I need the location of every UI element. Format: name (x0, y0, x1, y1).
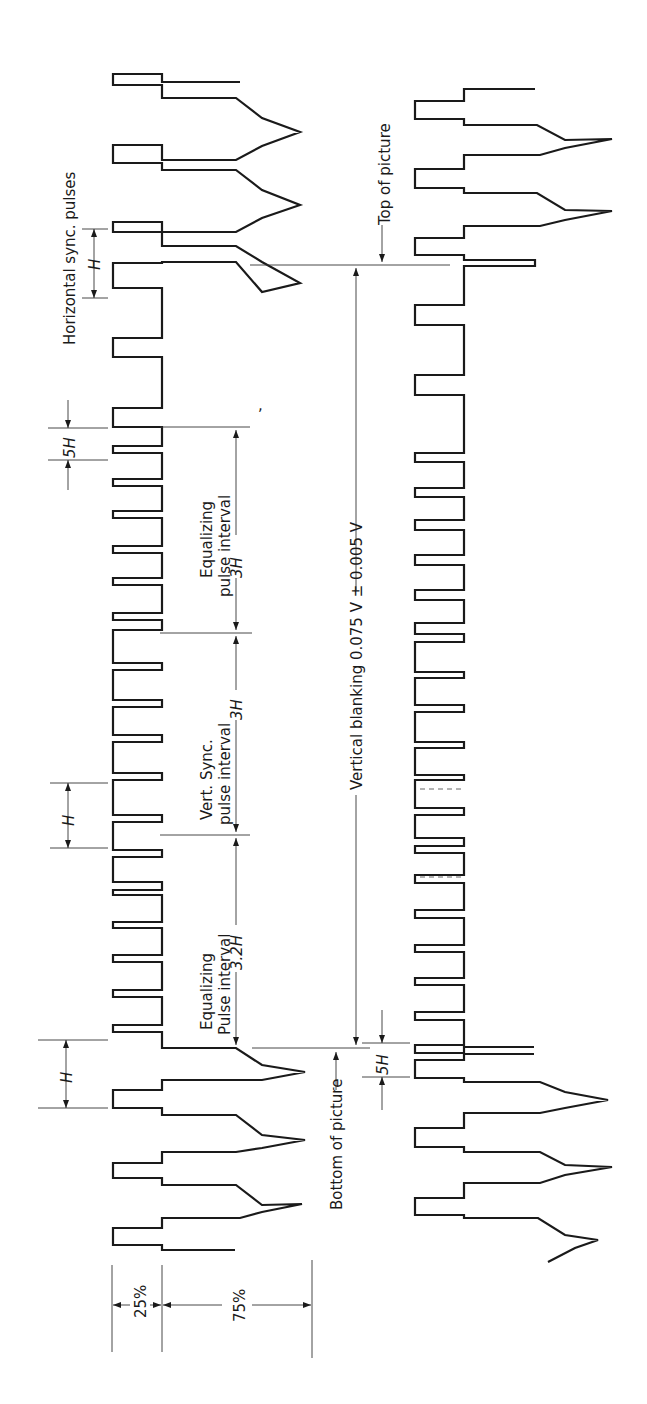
vs-interval-value: 3H (228, 699, 246, 720)
eq-interval-top-label-2: pulse interval (216, 495, 234, 597)
horizontal-sync-label: Horizontal sync. pulses (61, 171, 79, 345)
pct-75-label: 75% (231, 1289, 249, 1322)
eq-interval-top-value: 3H (228, 557, 246, 578)
eq-interval-bottom-label-1: Equalizing (198, 953, 216, 1030)
half-h-top-label: 5H (61, 437, 79, 458)
eq-interval-top-label-1: Equalizing (198, 501, 216, 578)
h-dim-bottom-label: H (58, 1072, 76, 1083)
vs-interval-label-2: pulse interval (216, 723, 234, 825)
waveform-field-1 (113, 74, 305, 1250)
h-dim-label: H (86, 259, 104, 270)
h-dim-mid-label: H (60, 815, 78, 826)
sync-waveform-diagram: Horizontal sync. pulses H 5H Equalizing … (0, 0, 647, 1404)
vs-interval-label-1: Vert. Sync. (198, 739, 216, 820)
pct-25-label: 25% (132, 1285, 150, 1318)
bottom-of-picture-label: Bottom of picture (328, 1079, 346, 1210)
stray-mark: , (258, 396, 263, 414)
vertical-blanking-label: Vertical blanking 0.075 V ± 0.005 V (348, 521, 366, 790)
top-of-picture-label: Top of picture (376, 123, 394, 226)
eq-interval-bottom-value: 3.2H (228, 935, 246, 970)
half-h-bottom-label: 5H (374, 1054, 392, 1075)
